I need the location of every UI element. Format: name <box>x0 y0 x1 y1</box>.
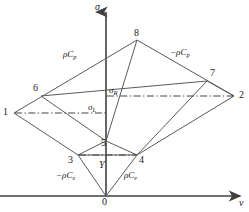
segment-2-4 <box>137 96 234 155</box>
sigma-R-label: σR <box>109 86 117 95</box>
y-axis-label: σ <box>95 2 100 12</box>
sigma-L-label: σL <box>88 103 96 112</box>
slope-elastic-positive-subscript: e <box>134 174 137 181</box>
node-3-label: 3 <box>68 155 73 165</box>
segment-7-4 <box>137 81 207 155</box>
segment-3-1 <box>14 113 78 155</box>
node-6-label: 6 <box>33 83 38 93</box>
node-4-label: 4 <box>139 155 144 165</box>
slope-plastic-positive-text: ρC <box>63 49 73 59</box>
sigma-L-subscript: L <box>92 106 96 113</box>
slope-elastic-positive-text: ρC <box>124 170 134 180</box>
slope-label-elastic-negative: −ρCe <box>56 171 75 180</box>
slope-plastic-positive-subscript: p <box>73 53 76 60</box>
node-5-label: 5 <box>101 138 106 148</box>
x-axis-label: v <box>239 198 243 208</box>
slope-plastic-negative-subscript: p <box>186 51 189 58</box>
stress-level-lines <box>15 96 233 155</box>
segment-5-4 <box>106 141 137 155</box>
axis-group <box>0 12 240 196</box>
slope-label-plastic-positive: ρCp <box>63 50 77 59</box>
origin-label: 0 <box>102 197 107 207</box>
node-1-label: 1 <box>3 107 8 117</box>
yield-label: Y <box>99 160 105 170</box>
node-8-label: 8 <box>134 28 139 38</box>
figure-canvas: σ v 0 1 2 3 4 5 6 7 8 ρCp −ρCp −ρCe ρCe … <box>0 0 249 212</box>
segment-5-6 <box>41 96 106 141</box>
slope-elastic-negative-text: −ρC <box>56 170 72 180</box>
segment-7-2 <box>207 81 234 96</box>
slope-plastic-negative-text: −ρC <box>170 47 186 57</box>
characteristics-diagram <box>0 0 249 212</box>
slope-label-plastic-negative: −ρCp <box>170 48 190 57</box>
slope-label-elastic-positive: ρCe <box>124 171 137 180</box>
outer-parallelogram <box>14 40 234 155</box>
node-7-label: 7 <box>210 68 215 78</box>
node-2-label: 2 <box>239 90 244 100</box>
sigma-R-subscript: R <box>113 89 117 96</box>
slope-elastic-negative-subscript: e <box>72 174 75 181</box>
